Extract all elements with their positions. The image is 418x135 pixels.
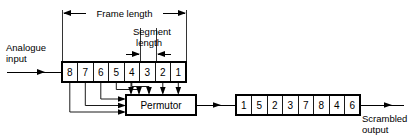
output-cell-7: 6 — [350, 100, 356, 111]
left-routing-wires — [70, 82, 126, 115]
permutor-block: Permutor — [126, 95, 196, 115]
input-cell-7: 1 — [176, 67, 182, 78]
permutor-label: Permutor — [140, 100, 182, 111]
crossover-wires — [116, 82, 152, 95]
segment-left-arrowhead — [132, 51, 140, 57]
output-cell-2: 2 — [272, 100, 278, 111]
analogue-input-arrowhead — [37, 69, 45, 75]
wire-cell-7-arrowhead — [118, 103, 126, 109]
output-cell-5: 8 — [319, 100, 325, 111]
permutor-output-arrowhead — [213, 102, 221, 108]
frame-left-arrowhead — [63, 10, 71, 16]
input-frame-register: 8 7 6 5 4 3 2 1 — [62, 62, 186, 82]
input-cell-0: 8 — [67, 67, 73, 78]
analogue-input-group: Analogue input — [6, 42, 61, 75]
input-cell-2: 6 — [98, 67, 104, 78]
input-cell-6: 2 — [160, 67, 166, 78]
wire-cell-1-arrowhead — [176, 87, 182, 95]
wire-cell-5 — [116, 82, 139, 93]
frame-length-label: Frame length — [97, 8, 153, 19]
scrambler-diagram: Frame length Segment length Analogue inp… — [0, 0, 418, 135]
wire-cell-6-arrowhead — [118, 96, 126, 102]
wire-cell-7 — [85, 82, 124, 106]
diagram-canvas: Frame length Segment length Analogue inp… — [0, 0, 418, 135]
output-cell-0: 1 — [241, 100, 247, 111]
output-cell-6: 4 — [334, 100, 340, 111]
analogue-input-label-line2: input — [6, 53, 27, 64]
wire-cell-5-arrowhead — [136, 87, 142, 95]
scrambled-output-register: 1 5 2 3 7 8 4 6 — [236, 95, 360, 115]
wire-cell-8-arrowhead — [118, 109, 126, 115]
scrambled-output-arrowhead — [384, 102, 392, 108]
segment-length-label-line2: length — [136, 37, 162, 48]
wire-cell-4-arrowhead — [146, 87, 152, 95]
permutor-to-output-arrow — [196, 102, 236, 108]
scrambled-output-label-line2: output — [362, 124, 389, 135]
output-cell-4: 7 — [303, 100, 309, 111]
output-cell-3: 3 — [288, 100, 294, 111]
input-cell-5: 3 — [145, 67, 151, 78]
segment-length-label-line1: Segment — [133, 26, 171, 37]
input-cell-1: 7 — [83, 67, 89, 78]
analogue-input-label-line1: Analogue — [6, 42, 46, 53]
segment-length-dimension: Segment length — [126, 26, 171, 62]
wire-cell-2-arrowhead — [160, 87, 166, 95]
scrambled-output-group: Scrambled output — [360, 102, 407, 135]
segment-right-arrowhead — [157, 51, 165, 57]
wire-cell-6 — [101, 82, 124, 99]
output-cell-1: 5 — [257, 100, 263, 111]
input-cell-4: 4 — [129, 67, 135, 78]
scrambled-output-label-line1: Scrambled — [362, 113, 407, 124]
input-cell-3: 5 — [114, 67, 120, 78]
direct-drop-wires — [128, 82, 181, 95]
wire-drop-a-arrowhead — [128, 87, 134, 95]
frame-right-arrowhead — [178, 10, 186, 16]
